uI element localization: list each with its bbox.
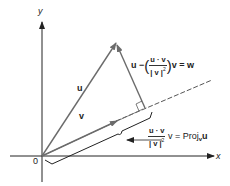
proj-formula-denominator: | v |2	[149, 137, 164, 147]
w-formula: u −(u · v| v |2)v = w	[131, 56, 194, 76]
vector-u-label: u	[77, 84, 83, 93]
x-axis-label: x	[216, 152, 221, 161]
projection-diagram: y x 0 u v u −(u · v| v |2)v = w u · v| v…	[0, 0, 230, 186]
y-axis-label: y	[38, 7, 43, 16]
proj-formula-u: u	[202, 131, 208, 141]
w-formula-norm: | v |	[150, 67, 163, 76]
proj-formula-power: 2	[162, 137, 165, 143]
w-formula-v: v	[172, 60, 177, 70]
proj-formula: u · v| v |2 v = Projvu	[148, 127, 208, 147]
w-formula-denominator: | v |2	[150, 66, 165, 76]
w-formula-power: 2	[163, 66, 166, 72]
proj-formula-norm: | v |	[149, 138, 162, 147]
w-formula-fraction: u · v| v |2	[149, 56, 166, 76]
origin-label: 0	[33, 157, 38, 166]
proj-formula-numerator: u · v	[148, 127, 165, 137]
w-formula-equals: = w	[179, 60, 194, 70]
vector-w	[117, 45, 145, 108]
w-formula-u: u	[131, 60, 137, 70]
w-formula-numerator: u · v	[149, 56, 166, 66]
vector-v-label: v	[79, 112, 84, 121]
proj-formula-fraction: u · v| v |2	[148, 127, 165, 147]
proj-formula-text: v = Proj	[168, 131, 199, 141]
